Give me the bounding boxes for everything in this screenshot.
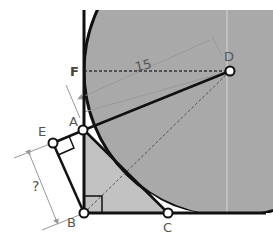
- dimension-ext-bottom: [42, 214, 82, 230]
- point-d: [226, 67, 235, 76]
- point-c: [164, 209, 173, 218]
- segment-eb: [53, 143, 84, 213]
- unknown-length-label: ?: [32, 178, 39, 194]
- point-a: [79, 126, 88, 135]
- dimension-ext-top: [14, 144, 50, 158]
- label-b: B: [67, 215, 76, 230]
- point-e: [49, 139, 58, 148]
- point-b: [80, 209, 89, 218]
- label-e: E: [38, 124, 46, 139]
- label-c: C: [163, 220, 172, 235]
- label-f: F: [70, 64, 79, 79]
- label-a: A: [69, 114, 78, 129]
- label-d: D: [224, 49, 234, 64]
- geometry-diagram: A E B C D F 15 ?: [0, 0, 273, 242]
